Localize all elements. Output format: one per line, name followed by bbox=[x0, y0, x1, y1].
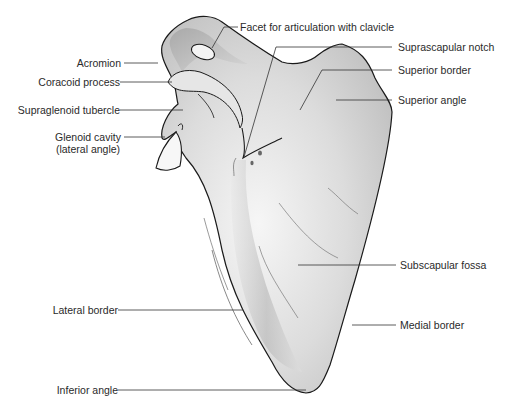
scapula-diagram: Facet for articulation with clavicle Sup… bbox=[0, 0, 511, 408]
label-subscapular-fossa: Subscapular fossa bbox=[400, 259, 486, 271]
label-coracoid-process: Coracoid process bbox=[38, 76, 120, 88]
label-medial-border: Medial border bbox=[400, 319, 464, 331]
label-suprascapular-notch: Suprascapular notch bbox=[398, 41, 494, 53]
label-facet: Facet for articulation with clavicle bbox=[240, 21, 394, 33]
label-superior-angle: Superior angle bbox=[398, 94, 466, 106]
label-inferior-angle: Inferior angle bbox=[57, 384, 118, 396]
label-acromion: Acromion bbox=[77, 57, 121, 69]
label-lateral-border: Lateral border bbox=[53, 304, 118, 316]
label-glenoid-line2: (lateral angle) bbox=[52, 143, 124, 155]
label-superior-border: Superior border bbox=[398, 64, 471, 76]
label-supraglenoid-tubercle: Supraglenoid tubercle bbox=[18, 104, 120, 116]
label-glenoid-line1: Glenoid cavity bbox=[52, 131, 124, 143]
label-glenoid-cavity: Glenoid cavity (lateral angle) bbox=[52, 131, 124, 155]
